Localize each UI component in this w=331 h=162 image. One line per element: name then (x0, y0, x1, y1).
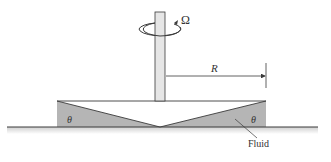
surface-shadow (7, 127, 318, 134)
omega-label: Ω (181, 13, 190, 27)
fluid-label: Fluid (248, 138, 269, 149)
shaft (155, 12, 165, 101)
angle-label-left: θ (67, 114, 72, 125)
rotation-arrow-front-left (139, 29, 155, 36)
rotation-arrow-front-right (165, 27, 181, 36)
cone-plate-viscometer-diagram: Ω R θ θ Fluid (0, 0, 331, 162)
radius-label: R (210, 62, 218, 74)
angle-label-right: θ (251, 114, 256, 125)
